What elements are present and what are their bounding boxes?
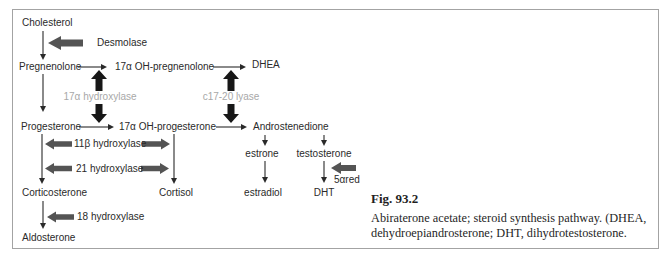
enzyme-11b-hydroxylase: 11β hydroxylase xyxy=(74,139,146,149)
hydroxylase-21-left-arrow-icon xyxy=(45,163,72,174)
reductase-5a-block-arrow-icon xyxy=(331,162,356,174)
node-estradiol: estradiol xyxy=(244,188,282,198)
node-testosterone: testosterone xyxy=(296,149,351,159)
enzyme-5a-reductase: 5αred xyxy=(334,175,360,185)
enzyme-c17-20-lyase: c17-20 lyase xyxy=(203,92,260,102)
desmolase-block-arrow-icon xyxy=(48,36,83,50)
node-cholesterol: Cholesterol xyxy=(22,18,73,28)
node-androstenedione: Androstenedione xyxy=(253,122,329,132)
hydroxylase-17a-up-arrow-icon xyxy=(91,70,107,91)
node-oh-progesterone: 17α OH-progesterone xyxy=(119,122,216,132)
node-estrone: estrone xyxy=(245,149,278,159)
node-dht: DHT xyxy=(314,188,335,198)
node-cortisol: Cortisol xyxy=(159,188,193,198)
lyase-c17-20-down-arrow-icon xyxy=(223,104,239,123)
hydroxylase-21-right-arrow-icon xyxy=(141,163,169,174)
node-corticosterone: Corticosterone xyxy=(22,188,87,198)
node-progesterone: Progesterone xyxy=(21,122,81,132)
figure-caption: Fig. 93.2 Abiraterone acetate; steroid s… xyxy=(371,192,663,241)
enzyme-18-hydroxylase: 18 hydroxylase xyxy=(77,212,144,222)
enzyme-desmolase: Desmolase xyxy=(97,38,147,48)
hydroxylase-18-block-arrow-icon xyxy=(47,212,74,223)
enzyme-21-hydroxylase: 21 hydroxylase xyxy=(76,164,143,174)
caption-line-1: Abiraterone acetate; steroid synthesis p… xyxy=(371,211,663,226)
caption-title: Fig. 93.2 xyxy=(371,192,663,206)
hydroxylase-17a-down-arrow-icon xyxy=(91,104,107,123)
node-oh-pregnenolone: 17α OH-pregnenolone xyxy=(115,62,214,72)
enzyme-17a-hydroxylase: 17α hydroxylase xyxy=(63,92,136,102)
figure-panel: Cholesterol Pregnenolone 17α OH-pregneno… xyxy=(0,0,672,261)
caption-line-2: dehydroepiandrosterone; DHT, dihydrotest… xyxy=(371,226,663,241)
hydroxylase-11b-left-arrow-icon xyxy=(45,139,72,150)
lyase-c17-20-up-arrow-icon xyxy=(223,70,239,91)
node-pregnenolone: Pregnenolone xyxy=(19,62,81,72)
node-dhea: DHEA xyxy=(252,60,280,70)
node-aldosterone: Aldosterone xyxy=(22,233,75,243)
